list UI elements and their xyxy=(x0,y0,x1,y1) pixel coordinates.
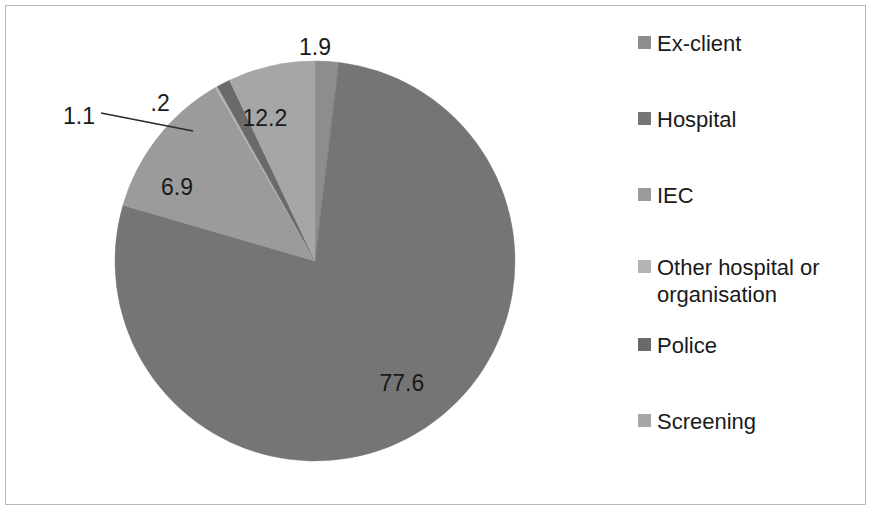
pie-svg xyxy=(0,0,600,519)
legend-item-label: IEC xyxy=(657,182,694,209)
legend-swatch-icon xyxy=(638,414,651,427)
legend-swatch-icon xyxy=(638,36,651,49)
legend-item-other-hospital-or-organisation[interactable]: Other hospital or organisation xyxy=(638,254,866,308)
slice-value-label-hospital: 77.6 xyxy=(380,370,425,397)
pie-chart: 1.977.612.2.21.16.9 xyxy=(0,0,600,519)
legend-item-hospital[interactable]: Hospital xyxy=(638,106,866,133)
legend-item-label: Ex-client xyxy=(657,30,741,57)
slice-value-label-ex-client: 1.9 xyxy=(299,34,331,61)
legend-swatch-icon xyxy=(638,112,651,125)
legend-item-label: Other hospital or organisation xyxy=(657,254,866,308)
slice-value-label-screening: 6.9 xyxy=(161,174,193,201)
legend-swatch-icon xyxy=(638,188,651,201)
legend-item-label: Screening xyxy=(657,408,756,435)
legend-item-screening[interactable]: Screening xyxy=(638,408,866,435)
legend-swatch-icon xyxy=(638,338,651,351)
legend-item-police[interactable]: Police xyxy=(638,332,866,359)
legend-item-ex-client[interactable]: Ex-client xyxy=(638,30,866,57)
slice-value-label-police: 1.1 xyxy=(63,103,95,130)
legend-item-iec[interactable]: IEC xyxy=(638,182,866,209)
slice-value-label-other-hospital-or-organisation: .2 xyxy=(151,90,170,117)
legend-item-label: Police xyxy=(657,332,717,359)
legend-swatch-icon xyxy=(638,260,651,273)
slice-value-label-iec: 12.2 xyxy=(243,105,288,132)
chart-frame: 1.977.612.2.21.16.9 Ex-clientHospitalIEC… xyxy=(0,0,874,519)
pie-slices xyxy=(115,61,515,461)
legend-item-label: Hospital xyxy=(657,106,736,133)
